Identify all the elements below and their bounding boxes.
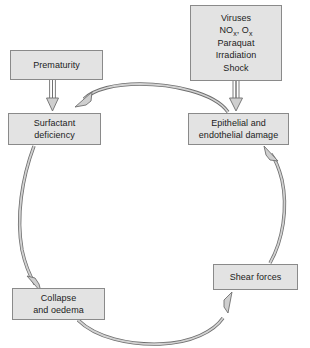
agents-line-irradiation: Irradiation	[216, 50, 257, 60]
node-shear-forces: Shear forces	[213, 264, 298, 290]
agents-line-nox-ox-prefix: NO	[220, 25, 234, 35]
arrow-agents-to-epithelial	[230, 81, 243, 111]
node-shear-forces-label: Shear forces	[227, 271, 285, 284]
node-epithelial-endothelial-damage-label: Epithelial and endothelial damage	[196, 117, 281, 142]
node-collapse-and-oedema-label: Collapse and oedema	[30, 292, 87, 317]
node-injurious-agents-label: VirusesNOx, OxParaquatIrradiationShock	[213, 12, 260, 75]
arc-shear-to-epithelial	[264, 146, 285, 263]
node-epithelial-endothelial-damage: Epithelial and endothelial damage	[188, 113, 289, 145]
agents-line-nox-ox-mid: , O	[237, 25, 249, 35]
arc-epithelial-to-surfactant	[75, 84, 228, 112]
pathogenesis-cycle-diagram: Prematurity VirusesNOx, OxParaquatIrradi…	[0, 0, 310, 348]
node-prematurity-label: Prematurity	[30, 59, 83, 72]
node-surfactant-deficiency-label: Surfactant deficiency	[31, 117, 79, 142]
agents-line-shock: Shock	[223, 63, 248, 73]
node-collapse-and-oedema: Collapse and oedema	[12, 288, 105, 320]
node-prematurity: Prematurity	[10, 50, 103, 80]
agents-line-ox-subscript: x	[249, 30, 253, 37]
node-injurious-agents: VirusesNOx, OxParaquatIrradiationShock	[190, 5, 282, 81]
agents-line-viruses: Viruses	[221, 13, 251, 23]
agents-line-paraquat: Paraquat	[218, 38, 255, 48]
arc-surfactant-to-collapse	[20, 146, 41, 292]
node-surfactant-deficiency: Surfactant deficiency	[8, 113, 101, 145]
arrow-prematurity-to-surfactant	[47, 80, 59, 111]
